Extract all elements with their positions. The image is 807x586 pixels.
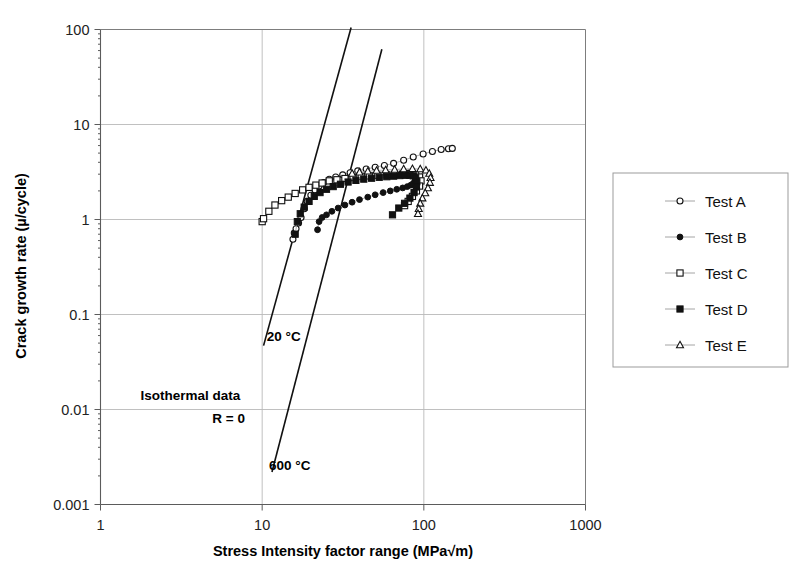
data-point bbox=[272, 202, 278, 208]
data-point bbox=[329, 208, 335, 214]
x-axis-title: Stress Intensity factor range (MPa√m) bbox=[213, 543, 473, 559]
y-tick-label: 0.001 bbox=[53, 497, 89, 513]
data-point bbox=[365, 194, 371, 200]
data-point bbox=[335, 205, 341, 211]
chart-legend[interactable]: Test ATest BTest CTest DTest E bbox=[613, 173, 788, 367]
data-point bbox=[292, 190, 298, 196]
data-point bbox=[401, 200, 407, 206]
x-tick-label: 100 bbox=[412, 517, 436, 533]
data-point bbox=[387, 188, 393, 194]
legend-marker-filled-square-icon bbox=[677, 306, 683, 312]
data-point bbox=[357, 197, 363, 203]
data-point bbox=[323, 186, 329, 192]
note-ratio: R = 0 bbox=[212, 411, 245, 426]
y-tick-label: 0.01 bbox=[61, 402, 89, 418]
data-point bbox=[279, 198, 285, 204]
data-point bbox=[337, 181, 343, 187]
data-point bbox=[677, 306, 683, 312]
x-tick-label: 1 bbox=[96, 517, 104, 533]
data-point bbox=[260, 216, 266, 222]
data-point bbox=[292, 231, 298, 237]
data-point bbox=[429, 148, 435, 154]
data-point bbox=[389, 212, 395, 218]
data-point bbox=[368, 175, 374, 181]
data-point bbox=[349, 199, 355, 205]
data-point bbox=[306, 184, 312, 190]
data-point bbox=[311, 193, 317, 199]
data-point bbox=[297, 211, 303, 217]
y-tick-label: 10 bbox=[73, 117, 89, 133]
legend-label: Test D bbox=[705, 301, 748, 318]
data-point bbox=[266, 208, 272, 214]
data-point bbox=[396, 205, 402, 211]
crack-growth-rate-chart: 0.0010.010.11101001101001000 20 °C600 °C… bbox=[0, 0, 807, 586]
data-point bbox=[449, 145, 455, 151]
legend-marker-filled-circle-icon bbox=[677, 234, 683, 240]
data-point bbox=[438, 147, 444, 153]
data-point bbox=[294, 219, 300, 225]
data-point bbox=[391, 160, 397, 166]
data-point bbox=[285, 194, 291, 200]
data-point bbox=[677, 234, 683, 240]
legend-marker-open-square-icon bbox=[677, 270, 683, 276]
data-point bbox=[677, 270, 683, 276]
data-point bbox=[380, 190, 386, 196]
line-label-600c: 600 °C bbox=[269, 458, 311, 473]
data-point bbox=[420, 151, 426, 157]
data-point bbox=[324, 212, 330, 218]
data-point bbox=[315, 227, 321, 233]
data-point bbox=[319, 180, 325, 186]
data-point bbox=[361, 176, 367, 182]
data-point bbox=[313, 182, 319, 188]
legend-label: Test B bbox=[705, 229, 747, 246]
data-point bbox=[345, 179, 351, 185]
data-point bbox=[372, 192, 378, 198]
line-label-20c: 20 °C bbox=[267, 329, 301, 344]
data-point bbox=[300, 187, 306, 193]
y-tick-label: 100 bbox=[65, 22, 89, 38]
legend-label: Test C bbox=[705, 265, 748, 282]
note-isothermal: Isothermal data bbox=[141, 388, 241, 403]
data-point bbox=[353, 177, 359, 183]
x-tick-label: 10 bbox=[254, 517, 270, 533]
y-axis-title: Crack growth rate (µ/cycle) bbox=[13, 173, 29, 359]
data-point bbox=[677, 198, 683, 204]
data-point bbox=[376, 174, 382, 180]
y-tick-label: 0.1 bbox=[69, 307, 89, 323]
data-point bbox=[330, 183, 336, 189]
data-point bbox=[317, 189, 323, 195]
data-point bbox=[410, 154, 416, 160]
data-point bbox=[390, 173, 396, 179]
data-point bbox=[384, 174, 390, 180]
data-point bbox=[401, 157, 407, 163]
y-tick-label: 1 bbox=[81, 212, 89, 228]
legend-marker-open-circle-icon bbox=[677, 198, 683, 204]
x-tick-label: 1000 bbox=[569, 517, 601, 533]
legend-box bbox=[613, 173, 788, 367]
legend-label: Test E bbox=[705, 337, 747, 354]
figure-container: 0.0010.010.11101001101001000 20 °C600 °C… bbox=[0, 0, 807, 586]
data-point bbox=[394, 186, 400, 192]
data-point bbox=[342, 202, 348, 208]
legend-label: Test A bbox=[705, 193, 746, 210]
